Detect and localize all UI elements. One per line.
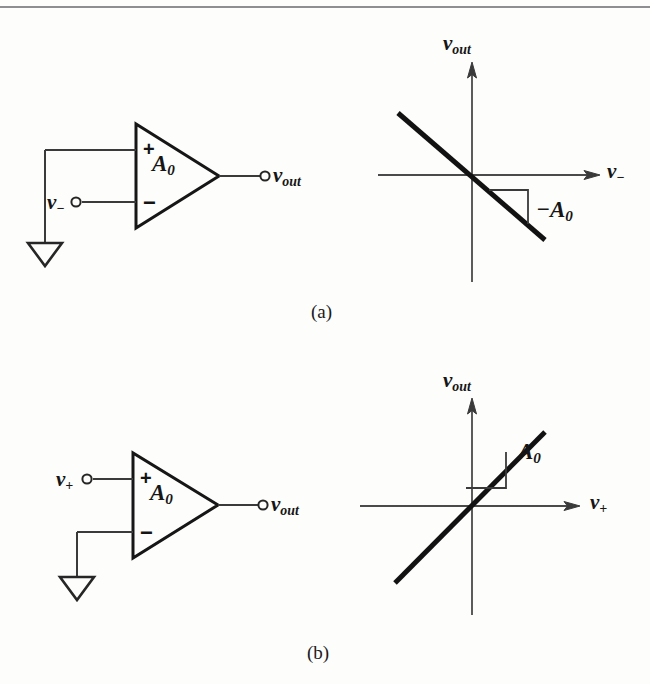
opamp-b-gain-subscript: 0 (165, 490, 173, 507)
graph-a-slope-label: −A0 (536, 198, 573, 223)
opamp-b-output-terminal-label: vout (271, 494, 299, 518)
figure-page: + − A0 v− vout vout v− −A0 (a) + − A0 v+… (0, 0, 650, 684)
opamp-a-output-terminal-label: vout (273, 165, 301, 189)
graph-a-slope-subscript: 0 (565, 207, 573, 224)
graph-b-slope-letter: A (518, 439, 533, 464)
output-terminal-node-a (260, 171, 269, 180)
graph-b-slope-subscript: 0 (533, 449, 541, 466)
graph-a-x-axis-label: v− (607, 161, 625, 185)
graph-a-y-letter: v (443, 31, 452, 55)
graph-a-y-axis-label: vout (443, 33, 471, 57)
graph-b-y-axis-label: vout (443, 370, 471, 394)
opamp-b-gain-letter: A (150, 480, 165, 505)
opamp-b-minus-marker: − (140, 522, 153, 544)
graph-b-slope-label: A0 (518, 440, 541, 465)
figure-vector-layer (0, 0, 650, 684)
input-terminal-node-b (82, 474, 91, 483)
opamp-a-input-terminal-label: v− (47, 192, 65, 216)
opamp-a-minus-marker: − (143, 192, 156, 214)
opamp-a-gain-letter: A (152, 151, 167, 176)
graph-b-x-subscript: + (599, 501, 607, 516)
graph-b-x-letter: v (590, 490, 599, 514)
opamp-b-input-letter: v (56, 467, 65, 491)
graph-b-y-letter: v (443, 368, 452, 392)
opamp-b-gain-label: A0 (150, 481, 173, 506)
opamp-a-input-subscript: − (56, 201, 64, 216)
graph-a-y-subscript: out (452, 42, 471, 57)
input-terminal-node-a (71, 197, 80, 206)
output-terminal-node-b (258, 500, 267, 509)
panel-b-circuit (60, 453, 268, 600)
panel-b-graph (360, 398, 580, 615)
panel-a-caption: (a) (311, 302, 332, 321)
graph-a-x-letter: v (607, 159, 616, 183)
opamp-a-output-letter: v (273, 163, 282, 187)
opamp-b-input-subscript: + (65, 478, 73, 493)
graph-a-x-subscript: − (616, 170, 624, 185)
opamp-a-gain-label: A0 (152, 152, 175, 177)
opamp-b-output-subscript: out (280, 503, 299, 518)
opamp-b-input-terminal-label: v+ (56, 469, 73, 493)
panel-a-graph (378, 62, 600, 282)
opamp-a-output-subscript: out (282, 174, 301, 189)
panel-b-caption: (b) (307, 643, 329, 662)
opamp-b-output-letter: v (271, 492, 280, 516)
opamp-a-gain-subscript: 0 (167, 161, 175, 178)
ground-icon-b (60, 577, 94, 600)
ground-icon-a (28, 243, 62, 266)
graph-b-y-subscript: out (452, 379, 471, 394)
graph-a-slope-letter: −A (536, 197, 565, 222)
opamp-a-input-letter: v (47, 190, 56, 214)
graph-b-x-axis-label: v+ (590, 492, 607, 516)
